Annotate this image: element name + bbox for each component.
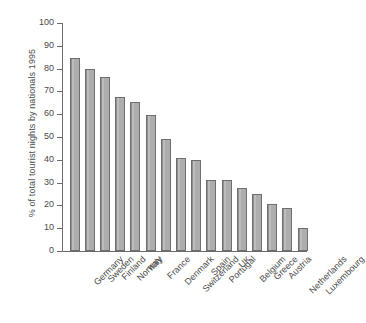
bar bbox=[222, 180, 232, 251]
bars-layer bbox=[62, 23, 310, 252]
bar bbox=[100, 77, 110, 251]
bar bbox=[161, 139, 171, 251]
y-tick-label: 70 bbox=[44, 85, 54, 95]
y-tick-label: 0 bbox=[49, 245, 54, 255]
plot-area: 0102030405060708090100 bbox=[62, 23, 310, 251]
y-tick-label: 10 bbox=[44, 222, 54, 232]
y-tick-label: 80 bbox=[44, 63, 54, 73]
y-tick-label: 50 bbox=[44, 131, 54, 141]
bar bbox=[298, 228, 308, 251]
bar bbox=[130, 102, 140, 251]
y-axis-label: % of total tourist nights by nationals 1… bbox=[27, 13, 37, 253]
y-tick-label: 100 bbox=[39, 17, 54, 27]
bar bbox=[176, 158, 186, 251]
bar bbox=[115, 97, 125, 251]
bar bbox=[191, 160, 201, 251]
bar bbox=[146, 115, 156, 251]
y-tick-label: 40 bbox=[44, 154, 54, 164]
bar bbox=[70, 58, 80, 251]
bar bbox=[267, 204, 277, 251]
bar bbox=[282, 208, 292, 251]
x-axis-tick-labels: GermanySwedenFinlandNorwayItalyFranceDen… bbox=[62, 254, 329, 323]
bar bbox=[85, 69, 95, 251]
y-tick-label: 60 bbox=[44, 108, 54, 118]
bar bbox=[252, 194, 262, 251]
y-tick-label: 20 bbox=[44, 199, 54, 209]
bar bbox=[206, 180, 216, 251]
y-tick-label: 90 bbox=[44, 40, 54, 50]
y-tick-label: 30 bbox=[44, 177, 54, 187]
bar bbox=[237, 188, 247, 251]
